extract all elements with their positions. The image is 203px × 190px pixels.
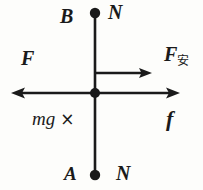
label-weight-mg: mg× (32, 109, 74, 128)
multiply-cross-icon: × (60, 109, 74, 129)
origin-dot (90, 88, 100, 98)
label-force-ampere-base: F (164, 43, 177, 65)
label-pole-north-bottom: N (116, 163, 130, 183)
label-point-A: A (64, 164, 77, 183)
label-force-ampere-subscript: 安 (177, 54, 189, 68)
label-force-ampere: F安 (164, 44, 189, 67)
pole-dot-top (90, 8, 100, 18)
label-magnetic-field-B: B (60, 6, 73, 26)
force-diagram-figure: B N F F安 mg× f A N (0, 0, 203, 190)
label-force-F: F (21, 48, 34, 68)
pole-dot-bottom (90, 170, 100, 180)
force-diagram-canvas (0, 0, 203, 190)
label-friction-f: f (166, 108, 173, 130)
label-pole-north-top: N (108, 2, 122, 22)
label-weight-mg-text: mg (32, 108, 55, 129)
